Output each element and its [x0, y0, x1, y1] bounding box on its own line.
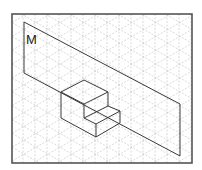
isometric-diagram: M	[0, 0, 202, 170]
plane-label: M	[26, 32, 37, 47]
